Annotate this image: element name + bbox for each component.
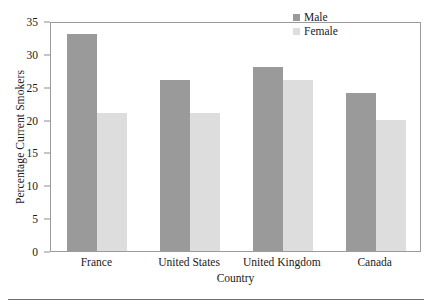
legend-item-label: Female bbox=[304, 25, 338, 39]
y-axis-tick-labels: 05101520253035 bbox=[0, 0, 46, 306]
x-axis-title: Country bbox=[50, 272, 421, 284]
bar-group bbox=[67, 23, 127, 251]
x-axis-tick-label: Canada bbox=[357, 256, 391, 268]
bar-group bbox=[253, 23, 313, 251]
x-axis-tick-label: United States bbox=[158, 256, 220, 268]
bar-group bbox=[160, 23, 220, 251]
legend-item-male: Male bbox=[293, 11, 338, 25]
bar-male-united-kingdom bbox=[253, 67, 283, 251]
figure-bottom-rule bbox=[8, 299, 424, 300]
bar-male-france bbox=[67, 34, 97, 251]
bar-chart-figure: Percentage Current Smokers 0510152025303… bbox=[0, 0, 432, 306]
bar-female-france bbox=[97, 113, 127, 251]
y-axis-tick-label: 10 bbox=[27, 180, 39, 192]
bar-male-united-states bbox=[160, 80, 190, 251]
y-axis-tick-label: 35 bbox=[27, 16, 39, 28]
y-axis-tick-label: 30 bbox=[27, 49, 39, 61]
y-axis-tick-label: 20 bbox=[27, 115, 39, 127]
legend-item-female: Female bbox=[293, 25, 338, 39]
bar-group bbox=[346, 23, 406, 251]
bar-female-united-states bbox=[190, 113, 220, 251]
legend-item-label: Male bbox=[304, 11, 328, 25]
bar-male-canada bbox=[346, 93, 376, 251]
legend-swatch-icon bbox=[293, 28, 300, 35]
chart-legend: MaleFemale bbox=[293, 11, 338, 38]
y-axis-tick-label: 15 bbox=[27, 147, 39, 159]
plot-area bbox=[50, 22, 421, 252]
x-axis-tick-label: France bbox=[81, 256, 112, 268]
y-axis-tick-label: 25 bbox=[27, 82, 39, 94]
x-axis-tick-label: United Kingdom bbox=[243, 256, 321, 268]
bar-female-united-kingdom bbox=[283, 80, 313, 251]
y-axis-tick-label: 5 bbox=[32, 213, 38, 225]
legend-swatch-icon bbox=[293, 14, 300, 21]
y-axis-tick-label: 0 bbox=[32, 246, 38, 258]
bar-female-canada bbox=[376, 120, 406, 251]
bar-groups bbox=[51, 23, 420, 251]
